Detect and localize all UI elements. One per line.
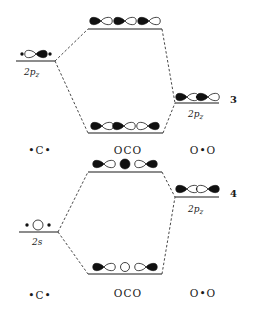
fragment-label-oxygens-4: O•O <box>190 287 216 299</box>
carbon-2s-level: 2s <box>19 220 58 247</box>
carbon-2pz-level: 2pz <box>16 50 55 79</box>
oxygen-2pz-label-3: 2pz <box>187 109 204 121</box>
fragment-label-carbon-4: •C• <box>28 289 51 301</box>
mo-diagram: 2pz 2pz 3 •C• OCO O•O <box>0 0 257 312</box>
fragment-label-oco-3: OCO <box>114 144 142 156</box>
carbon-2s-label: 2s <box>31 237 43 247</box>
fragment-label-carbon-3: •C• <box>28 144 51 156</box>
carbon-2pz-label: 2pz <box>23 67 40 79</box>
fragment-label-oco-4: OCO <box>114 287 142 299</box>
oxygen-2pz-level-3: 2pz <box>175 93 219 121</box>
oxygen-2pz-level-4: 2pz <box>175 185 219 216</box>
oxygen-2pz-label-4: 2pz <box>187 204 204 216</box>
mo-bottom-4 <box>88 263 162 275</box>
mo-bottom-3 <box>88 122 163 133</box>
fragment-label-oxygens-3: O•O <box>190 144 216 156</box>
diagram-4: 2s 2pz 4 •C• OCO O•O <box>19 159 237 301</box>
diagram-number-3: 3 <box>230 94 237 105</box>
diagram-number-4: 4 <box>230 188 237 199</box>
mo-top-4 <box>88 159 162 172</box>
mo-top-antibonding-3 <box>88 17 162 29</box>
diagram-3: 2pz 2pz 3 •C• OCO O•O <box>16 17 237 156</box>
